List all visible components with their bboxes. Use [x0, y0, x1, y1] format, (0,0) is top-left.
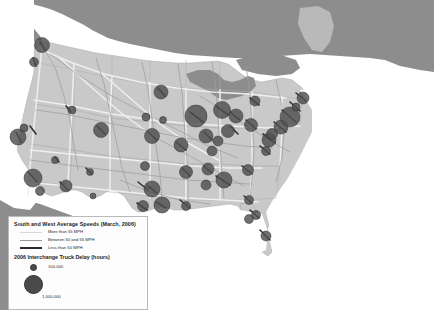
delay-circle: [35, 38, 50, 53]
legend-speed-class-slow: Less than 50 MPH: [20, 244, 142, 252]
legend-delay-label-small: 100,000: [48, 264, 63, 269]
delay-circle: [20, 124, 28, 132]
delay-circle: [160, 117, 167, 124]
delay-circle: [52, 157, 59, 164]
delay-circle: [30, 58, 39, 67]
delay-circle: [245, 119, 258, 132]
delay-circle: [292, 103, 300, 111]
delay-circle: [154, 85, 168, 99]
delay-circle: [174, 138, 188, 152]
delay-circle: [182, 202, 191, 211]
legend-delay-symbol-large: 1,000,000: [20, 274, 142, 300]
legend-speed-label-slow: Less than 50 MPH: [48, 245, 82, 251]
delay-circle: [185, 105, 207, 127]
legend-speed-label-fast: More than 55 MPH: [48, 229, 83, 235]
delay-circle: [141, 162, 150, 171]
delay-circle: [261, 231, 271, 241]
speed-swatch-medium-icon: [20, 240, 42, 241]
delay-circle: [297, 92, 309, 104]
delay-circle: [87, 169, 94, 176]
delay-circle-large-icon: [24, 275, 43, 294]
delay-circle: [24, 169, 42, 187]
legend-delay-symbol-small: 100,000: [20, 261, 142, 274]
delay-circle: [216, 172, 232, 188]
legend-delay-label-large: 1,000,000: [42, 294, 61, 299]
delay-circle: [245, 196, 254, 205]
legend-speed-class-medium: Between 50 and 55 MPH: [20, 236, 142, 244]
delay-circle: [202, 163, 214, 175]
delay-circle: [214, 102, 231, 119]
delay-circle: [60, 180, 72, 192]
delay-circle: [138, 201, 149, 212]
delay-circle: [68, 106, 76, 114]
delay-circle: [36, 187, 45, 196]
delay-circle: [207, 146, 217, 156]
delay-circle: [222, 125, 235, 138]
map-legend: South and West Average Speeds (March, 20…: [8, 216, 148, 310]
delay-circle: [90, 193, 96, 199]
delay-circle: [213, 136, 223, 146]
legend-delay-title: 2006 Interchange Truck Delay (hours): [14, 254, 142, 261]
map-container: South and West Average Speeds (March, 20…: [0, 0, 434, 310]
delay-circle: [262, 147, 271, 156]
delay-circle: [250, 96, 260, 106]
delay-circle: [243, 165, 254, 176]
delay-circle: [180, 166, 193, 179]
legend-speed-class-fast: More than 55 MPH: [20, 228, 142, 236]
legend-speed-title: South and West Average Speeds (March, 20…: [14, 221, 142, 228]
delay-circle: [245, 215, 254, 224]
delay-circle-small-icon: [30, 264, 37, 271]
delay-circle: [94, 123, 109, 138]
legend-speed-label-medium: Between 50 and 55 MPH: [48, 237, 95, 243]
delay-circle: [201, 180, 211, 190]
delay-circle: [229, 109, 243, 123]
delay-circle: [199, 129, 213, 143]
delay-circle: [145, 129, 160, 144]
delay-circle: [142, 113, 150, 121]
speed-swatch-slow-icon: [20, 247, 42, 249]
delay-circle: [144, 181, 160, 197]
speed-swatch-fast-icon: [20, 232, 42, 233]
delay-circle: [154, 197, 170, 213]
